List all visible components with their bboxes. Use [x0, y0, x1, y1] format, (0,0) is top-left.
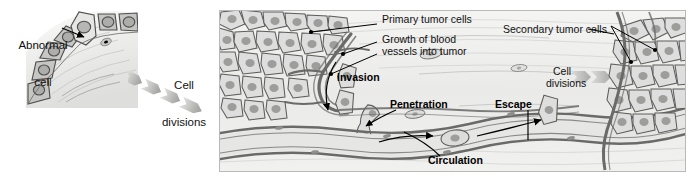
figure-canvas: Abnormal cell Cell divisions	[0, 0, 695, 178]
circulation-leader-line	[400, 126, 444, 158]
penetration-leader-line	[360, 108, 400, 134]
label-growth-of-blood-vessels-line1: Growth of blood	[382, 34, 456, 45]
label-primary-tumor-cells: Primary tumor cells	[382, 14, 472, 25]
abnormal-cell-leader-line	[60, 24, 96, 46]
label-cell-divisions-right-line2: divisions	[546, 78, 586, 89]
secondary-tumor-label-leader	[588, 26, 618, 36]
label-escape: Escape	[495, 99, 532, 110]
escape-leader-line	[520, 110, 550, 144]
invasion-leader-line	[314, 58, 354, 118]
label-cell-divisions-right-line1: Cell	[553, 66, 571, 77]
cell-divisions-arrows	[128, 62, 224, 122]
label-growth-of-blood-vessels-line2: vessels into tumor	[382, 46, 467, 57]
chevron-arrow-group	[128, 70, 204, 117]
abnormal-cell-label-line2: cell	[10, 76, 76, 88]
